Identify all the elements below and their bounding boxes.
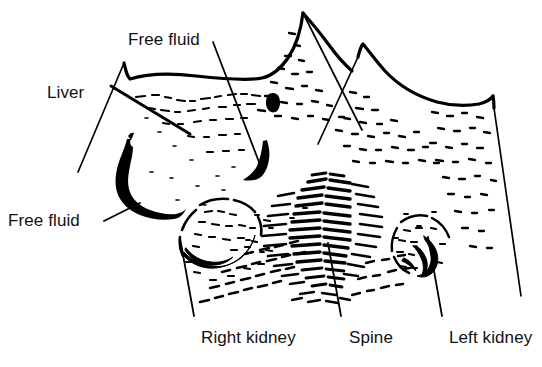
ultrasound-figure: Free fluid Liver Free fluid Right kidney… [0, 0, 542, 367]
label-spine: Spine [349, 328, 393, 347]
label-free-fluid-top: Free fluid [128, 30, 200, 49]
ultrasound-drawing-canvas [0, 0, 542, 367]
canvas-background [0, 0, 542, 367]
label-liver: Liver [47, 83, 84, 102]
label-right-kidney: Right kidney [201, 328, 296, 347]
label-left-kidney: Left kidney [449, 328, 532, 347]
label-free-fluid-left: Free fluid [8, 211, 80, 230]
